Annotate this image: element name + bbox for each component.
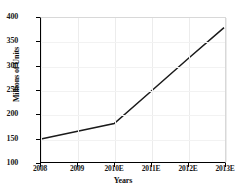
y-tick-label: 250 <box>0 86 18 94</box>
x-tick-label: 2013E <box>203 165 246 173</box>
x-axis-title: Years <box>0 176 246 185</box>
y-tick-mark <box>36 66 40 67</box>
y-tick-mark <box>36 114 40 115</box>
y-tick-mark <box>36 17 40 18</box>
y-tick-label: 300 <box>0 62 18 70</box>
y-gridline <box>41 42 225 43</box>
y-tick-mark <box>36 163 40 164</box>
y-tick-label: 200 <box>0 110 18 118</box>
y-gridline <box>41 140 225 141</box>
y-tick-mark <box>36 139 40 140</box>
y-gridline <box>41 115 225 116</box>
y-tick-mark <box>36 41 40 42</box>
x-gridline <box>226 18 227 162</box>
y-tick-mark <box>36 90 40 91</box>
y-gridline <box>41 91 225 92</box>
line-chart: Millions of Units Years 200820092010E201… <box>0 0 246 189</box>
y-tick-label: 350 <box>0 37 18 45</box>
series-polyline <box>41 28 224 139</box>
y-tick-label: 100 <box>0 159 18 167</box>
plot-area <box>40 17 226 163</box>
y-tick-label: 150 <box>0 135 18 143</box>
y-tick-label: 400 <box>0 13 18 21</box>
y-gridline <box>41 67 225 68</box>
